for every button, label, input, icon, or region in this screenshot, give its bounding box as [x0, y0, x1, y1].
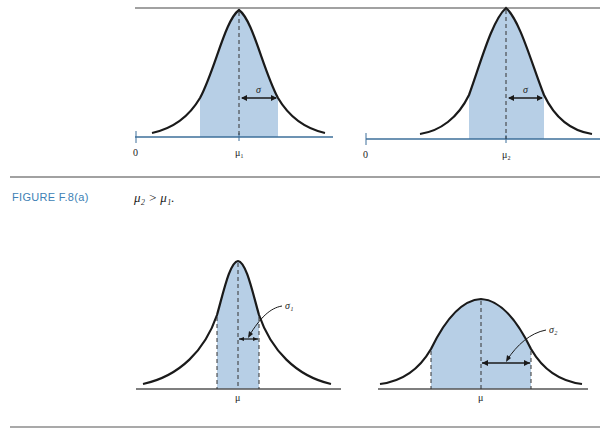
panel-bottom-left: σ₁ μ — [136, 261, 341, 403]
figure-canvas: σ 0 μ₁ σ 0 μ₂ σ₁ μ — [0, 0, 611, 443]
figure-caption: μ₂ > μ₁. — [134, 190, 175, 206]
panel-bottom-right: σ₂ μ — [378, 299, 588, 403]
mean-label: μ — [235, 392, 240, 403]
origin-label: 0 — [133, 147, 138, 158]
mean-label: μ — [478, 392, 483, 403]
sigma-label: σ₁ — [285, 300, 293, 311]
panel-top-left: σ 0 μ₁ — [133, 10, 333, 158]
mean-label: μ₂ — [502, 149, 511, 160]
sigma-label: σ₂ — [549, 324, 558, 335]
mean-label: μ₁ — [235, 147, 244, 158]
figure-label: FIGURE F.8(a) — [12, 191, 89, 203]
panel-top-right: σ 0 μ₂ — [363, 8, 600, 160]
origin-label: 0 — [363, 149, 368, 160]
